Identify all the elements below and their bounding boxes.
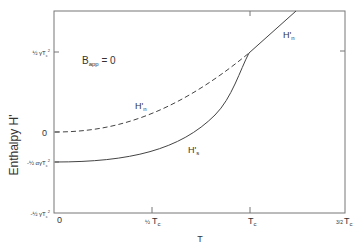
y-tick-label-zero: 0 xyxy=(42,128,47,138)
enthalpy-chart: Bapp = 0 H'n H's H'n Enthalpy H' ½ γTc2 … xyxy=(0,0,363,248)
x-tick-label-0: 0 xyxy=(57,215,62,225)
hn-high-label: H'n xyxy=(283,30,295,41)
hs-solid-curve xyxy=(55,53,249,162)
y-tick-label-alpha: -½ αγTc2 xyxy=(27,158,51,168)
x-tick-label-half: ½Tc xyxy=(145,216,161,227)
x-tick-label-3half: 3/2Tc xyxy=(336,216,352,227)
x-tick-label-tc: Tc xyxy=(248,216,257,227)
x-axis-title: T xyxy=(197,234,203,244)
y-axis-title: Enthalpy H' xyxy=(7,115,21,176)
plot-frame xyxy=(54,11,345,213)
hn-low-label: H'n xyxy=(135,101,147,112)
y-tick-label-bottom: -½ γTc2 xyxy=(30,209,50,219)
y-tick-label-top: ½ γTc2 xyxy=(32,48,50,58)
hs-label: H's xyxy=(188,145,199,156)
bapp-annotation: Bapp = 0 xyxy=(82,55,116,67)
